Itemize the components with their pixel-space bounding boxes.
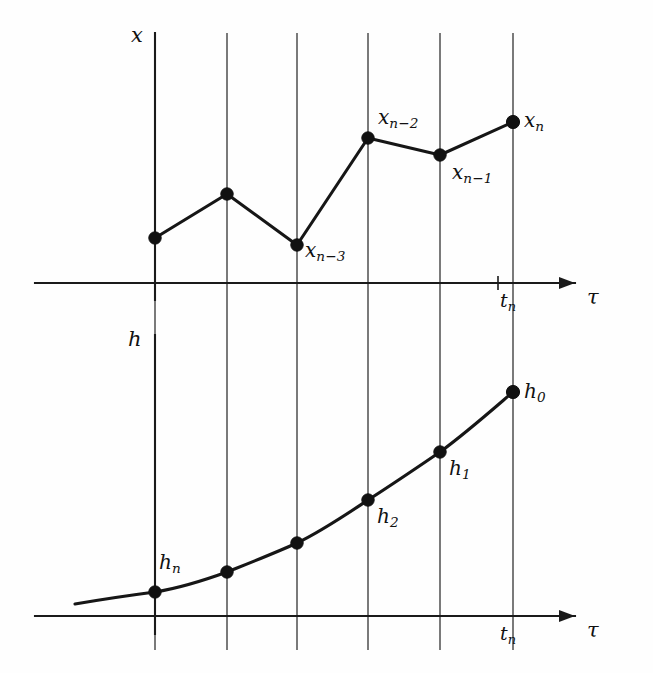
signal-point-1: [221, 188, 233, 200]
weight-point-label-h-n: hn: [159, 552, 181, 576]
signal-point-label-x-n: xn: [524, 110, 544, 134]
label-subscript: n−3: [316, 248, 345, 264]
label-base: x: [305, 238, 316, 262]
bottom-tick-label-tn: tn: [500, 624, 516, 647]
weight-point-0: [149, 586, 161, 598]
signal-point-0: [149, 232, 161, 244]
label-base: x: [452, 160, 463, 184]
weight-point-4: [434, 446, 446, 458]
weight-point-3: [362, 494, 374, 506]
gridline-group: [155, 33, 513, 650]
label-base: x: [378, 105, 389, 129]
tick-subscript: n: [508, 632, 517, 647]
label-subscript: n−1: [463, 170, 492, 186]
signal-point-4: [434, 149, 446, 161]
label-base: h: [449, 456, 462, 480]
label-base: h: [159, 550, 172, 574]
bottom-panel: [35, 335, 575, 634]
weighting-curve: [75, 392, 513, 604]
label-subscript: 1: [462, 466, 471, 482]
bottom-y-axis-label: h: [128, 329, 142, 350]
bottom-x-axis-label: τ: [587, 620, 599, 641]
signal-point-label-x-n-1: xn−1: [452, 162, 493, 186]
label-subscript: n: [535, 118, 544, 134]
signal-point-label-x-n-2: xn−2: [378, 107, 419, 131]
weight-point-1: [221, 566, 233, 578]
tick-base: t: [500, 289, 508, 311]
label-subscript: 2: [390, 514, 399, 530]
diagram-svg: [0, 0, 653, 673]
label-subscript: 0: [537, 389, 546, 405]
signal-point-3: [362, 132, 374, 144]
signal-point-2: [291, 239, 303, 251]
weight-point-label-h-0: h0: [524, 381, 546, 405]
label-subscript: n−2: [389, 115, 418, 131]
weight-point-2: [291, 537, 303, 549]
top-tick-label-tn: tn: [500, 291, 516, 314]
weight-point-label-h-2: h2: [377, 506, 399, 530]
top-y-axis-label: x: [131, 25, 143, 46]
weight-point-label-h-1: h1: [449, 458, 471, 482]
signal-point-label-x-n-3: xn−3: [305, 240, 346, 264]
figure-canvas: x xn−3 xn−2 xn−1 xn tn τ h hn h2 h1 h0 t…: [0, 0, 653, 673]
weight-point-5: [506, 385, 519, 398]
label-subscript: n: [172, 560, 181, 576]
label-base: x: [524, 108, 535, 132]
label-base: h: [524, 379, 537, 403]
top-x-axis-label: τ: [587, 287, 599, 308]
bottom-axis-arrow-icon: [559, 610, 575, 622]
label-base: h: [377, 504, 390, 528]
tick-base: t: [500, 622, 508, 644]
tick-subscript: n: [508, 299, 517, 314]
top-axis-arrow-icon: [559, 277, 575, 289]
signal-point-5: [506, 115, 519, 128]
